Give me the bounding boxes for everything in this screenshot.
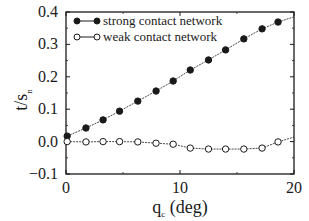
- series-weak-contact: [64, 137, 294, 152]
- filled-circle-marker: [205, 57, 211, 63]
- open-circle-marker: [64, 138, 70, 144]
- y-axis-label-sub: n: [24, 89, 34, 94]
- x-axis-label-suffix: (deg): [165, 197, 207, 218]
- legend-label: weak contact network: [103, 29, 218, 44]
- open-circle-marker: [187, 145, 193, 151]
- y-tick-label: 0.2: [38, 68, 58, 85]
- filled-circle-marker: [275, 19, 281, 25]
- x-tick-label: 10: [172, 179, 188, 196]
- filled-circle-marker: [135, 98, 141, 104]
- filled-circle-marker: [222, 47, 228, 53]
- open-circle-icon: [74, 34, 80, 40]
- x-axis-label: qc (deg): [152, 197, 207, 219]
- filled-circle-marker: [241, 36, 247, 42]
- y-tick-label: 0.4: [38, 3, 58, 20]
- x-tick-label: 20: [286, 179, 302, 196]
- open-circle-marker: [83, 139, 89, 145]
- filled-circle-icon: [94, 18, 100, 24]
- legend-label: strong contact network: [103, 13, 223, 28]
- filled-circle-marker: [116, 108, 122, 114]
- open-circle-marker: [222, 146, 228, 152]
- filled-circle-marker: [170, 78, 176, 84]
- y-axis-label-main: t/s: [11, 94, 31, 111]
- chart: −0.10.00.10.20.30.4 01020 strong contact…: [0, 0, 309, 221]
- open-circle-icon: [94, 34, 100, 40]
- open-circle-marker: [100, 138, 106, 144]
- open-circle-marker: [153, 140, 159, 146]
- filled-circle-icon: [74, 18, 80, 24]
- filled-circle-marker: [259, 26, 265, 32]
- legend-item: weak contact network: [74, 29, 218, 44]
- filled-circle-marker: [187, 67, 193, 73]
- filled-circle-marker: [83, 125, 89, 131]
- open-circle-marker: [259, 145, 265, 151]
- open-circle-marker: [135, 139, 141, 145]
- legend-item: strong contact network: [74, 13, 223, 28]
- legend: strong contact networkweak contact netwo…: [74, 13, 223, 44]
- y-axis-label: t/sn: [11, 89, 34, 111]
- open-circle-marker: [241, 146, 247, 152]
- open-circle-marker: [170, 141, 176, 147]
- open-circle-marker: [275, 139, 281, 145]
- y-tick-label: −0.1: [29, 165, 58, 182]
- x-tick-label: 0: [62, 179, 70, 196]
- y-tick-label: 0.3: [38, 35, 58, 52]
- y-tick-label: 0.1: [38, 100, 58, 117]
- filled-circle-marker: [153, 88, 159, 94]
- y-tick-label: 0.0: [38, 133, 58, 150]
- filled-circle-marker: [100, 117, 106, 123]
- open-circle-marker: [205, 146, 211, 152]
- x-axis-label-main: q: [152, 197, 161, 217]
- open-circle-marker: [116, 138, 122, 144]
